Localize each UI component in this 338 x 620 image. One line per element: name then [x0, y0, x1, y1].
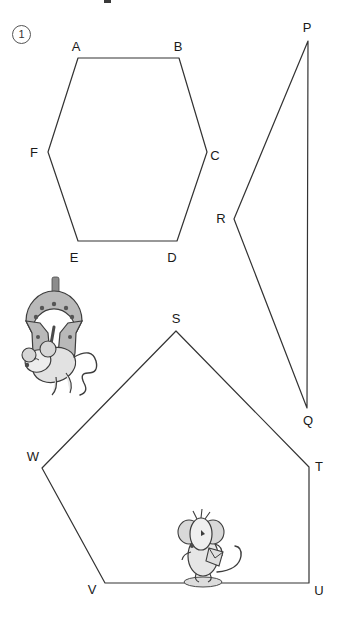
vertex-label-e: E	[70, 251, 79, 264]
vertex-label-f: F	[30, 146, 38, 159]
geometry-figures	[0, 0, 338, 620]
vertex-label-t: T	[315, 460, 323, 473]
vertex-label-b: B	[174, 40, 183, 53]
triangle-pqr-outline	[234, 41, 308, 408]
hexagon-abcdef-outline	[48, 58, 207, 241]
vertex-label-w: W	[27, 450, 39, 463]
vertex-label-d: D	[167, 251, 176, 264]
vertex-label-q: Q	[303, 414, 313, 427]
vertex-label-u: U	[314, 584, 323, 597]
vertex-label-s: S	[172, 312, 181, 325]
vertex-label-a: A	[72, 40, 81, 53]
vertex-label-v: V	[88, 583, 97, 596]
vertex-label-p: P	[303, 21, 312, 34]
mouse-standing-illustration	[178, 509, 241, 587]
pentagon-stuvw-outline	[42, 331, 309, 583]
mouse-hanging-from-horseshoe-illustration	[22, 277, 97, 395]
vertex-label-r: R	[216, 212, 225, 225]
worksheet-page: 1	[0, 0, 338, 620]
vertex-label-c: C	[210, 149, 219, 162]
